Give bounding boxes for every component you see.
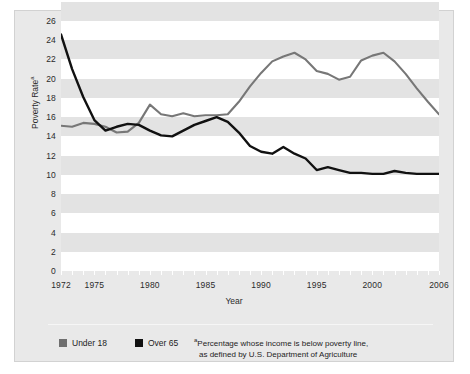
x-tick-1975: 1975 bbox=[84, 280, 104, 290]
y-tick-26: 26 bbox=[46, 16, 56, 26]
x-tick-mark bbox=[395, 271, 396, 275]
y-axis-title-footnote-marker: a bbox=[29, 77, 35, 80]
x-tick-mark bbox=[183, 271, 184, 275]
legend-separator bbox=[48, 324, 433, 325]
x-tick-mark bbox=[161, 271, 162, 275]
series-lines bbox=[61, 21, 439, 271]
x-axis-ticks bbox=[61, 271, 439, 278]
chart-figure: Poverty Ratea 26242220181614121086420 19… bbox=[14, 10, 454, 362]
legend-label-over-65: Over 65 bbox=[148, 338, 178, 348]
legend-item-under-18: Under 18 bbox=[59, 338, 107, 348]
x-tick-mark bbox=[261, 271, 262, 275]
x-tick-mark bbox=[406, 271, 407, 275]
x-tick-mark bbox=[139, 271, 140, 275]
x-tick-mark bbox=[61, 271, 62, 275]
y-tick-18: 18 bbox=[46, 93, 56, 103]
x-tick-mark bbox=[206, 271, 207, 275]
plot-wrapper: 26242220181614121086420 bbox=[61, 21, 439, 271]
x-tick-mark bbox=[372, 271, 373, 275]
x-tick-mark bbox=[250, 271, 251, 275]
x-tick-1990: 1990 bbox=[251, 280, 271, 290]
x-tick-mark bbox=[306, 271, 307, 275]
x-tick-1985: 1985 bbox=[196, 280, 216, 290]
x-tick-mark bbox=[150, 271, 151, 275]
chart-footnote: aPercentage whose income is below povert… bbox=[194, 335, 434, 360]
x-tick-mark bbox=[272, 271, 273, 275]
line-series-under-18 bbox=[61, 53, 439, 133]
x-tick-2006: 2006 bbox=[429, 280, 449, 290]
line-series-over-65 bbox=[61, 34, 439, 173]
y-tick-20: 20 bbox=[46, 74, 56, 84]
y-tick-16: 16 bbox=[46, 112, 56, 122]
y-tick-22: 22 bbox=[46, 54, 56, 64]
chart-legend: Under 18 Over 65 bbox=[59, 338, 206, 348]
y-tick-14: 14 bbox=[46, 131, 56, 141]
x-tick-mark bbox=[283, 271, 284, 275]
x-tick-mark bbox=[105, 271, 106, 275]
y-axis-title-text: Poverty Rate bbox=[30, 80, 40, 129]
x-tick-mark bbox=[339, 271, 340, 275]
legend-swatch-over-65 bbox=[135, 339, 143, 347]
x-tick-mark bbox=[172, 271, 173, 275]
y-tick-24: 24 bbox=[46, 35, 56, 45]
background-band bbox=[61, 2, 439, 21]
x-axis-title: Year bbox=[15, 296, 453, 306]
x-tick-1980: 1980 bbox=[140, 280, 160, 290]
y-tick-10: 10 bbox=[46, 170, 56, 180]
footnote-line-1: Percentage whose income is below poverty… bbox=[197, 339, 368, 348]
x-tick-mark bbox=[194, 271, 195, 275]
x-tick-mark bbox=[317, 271, 318, 275]
x-tick-mark bbox=[328, 271, 329, 275]
x-tick-1972: 1972 bbox=[51, 280, 71, 290]
x-tick-mark bbox=[361, 271, 362, 275]
x-tick-mark bbox=[239, 271, 240, 275]
x-tick-mark bbox=[228, 271, 229, 275]
y-tick-12: 12 bbox=[46, 151, 56, 161]
x-tick-mark bbox=[94, 271, 95, 275]
x-tick-mark bbox=[128, 271, 129, 275]
x-tick-mark bbox=[83, 271, 84, 275]
x-tick-2000: 2000 bbox=[362, 280, 382, 290]
legend-label-under-18: Under 18 bbox=[72, 338, 107, 348]
plot-area bbox=[61, 21, 439, 271]
x-tick-mark bbox=[72, 271, 73, 275]
y-tick-2: 2 bbox=[51, 247, 56, 257]
x-tick-mark bbox=[350, 271, 351, 275]
x-tick-mark bbox=[294, 271, 295, 275]
y-tick-0: 0 bbox=[51, 266, 56, 276]
x-tick-mark bbox=[117, 271, 118, 275]
y-axis-title: Poverty Ratea bbox=[29, 77, 40, 129]
y-tick-8: 8 bbox=[51, 189, 56, 199]
x-tick-mark bbox=[439, 271, 440, 275]
legend-swatch-under-18 bbox=[59, 339, 67, 347]
x-tick-mark bbox=[428, 271, 429, 275]
x-tick-1995: 1995 bbox=[307, 280, 327, 290]
x-tick-mark bbox=[217, 271, 218, 275]
footnote-line-2: as defined by U.S. Department of Agricul… bbox=[194, 349, 434, 360]
x-tick-mark bbox=[417, 271, 418, 275]
x-tick-mark bbox=[383, 271, 384, 275]
y-tick-4: 4 bbox=[51, 228, 56, 238]
legend-item-over-65: Over 65 bbox=[135, 338, 178, 348]
y-tick-6: 6 bbox=[51, 208, 56, 218]
